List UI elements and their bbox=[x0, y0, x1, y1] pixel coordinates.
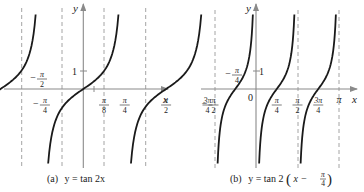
y-axis-label: y bbox=[72, 2, 78, 14]
frac-denominator: 4 bbox=[316, 106, 320, 115]
frac-numerator: π bbox=[102, 96, 107, 105]
frac-numerator: π bbox=[295, 96, 300, 105]
frac-denominator: 2 bbox=[296, 106, 300, 115]
figure: y x 1 −3π4−π4π8π4π23π4 −π2 (a) y = tan 2… bbox=[0, 0, 364, 192]
frac-denominator: 2 bbox=[212, 106, 216, 115]
tangent-curves-b bbox=[218, 14, 336, 163]
close-paren: ) bbox=[327, 171, 332, 188]
y-tick-label: 1 bbox=[72, 66, 77, 77]
minus-sign: − bbox=[30, 72, 36, 83]
frac-denominator: 2 bbox=[40, 80, 44, 89]
minus-sign: − bbox=[225, 68, 231, 79]
caption-prefix: (b) bbox=[230, 173, 242, 185]
frac-numerator: 3π bbox=[313, 96, 323, 105]
open-paren: ( bbox=[286, 171, 291, 188]
caption-frac-den: 4 bbox=[321, 179, 325, 188]
minus-sign: − bbox=[33, 98, 39, 109]
frac-denominator: 4 bbox=[123, 106, 127, 115]
frac-denominator: 4 bbox=[43, 106, 47, 115]
y-axis-label: y bbox=[245, 2, 251, 14]
frac-denominator: 2 bbox=[164, 106, 168, 115]
minus-sign: − bbox=[202, 98, 208, 109]
x-axis-label: x bbox=[351, 93, 357, 105]
y-tick-label: 1 bbox=[259, 66, 264, 77]
caption-a: (a) y = tan 2x bbox=[47, 173, 105, 185]
origin-label: 0 bbox=[248, 92, 253, 103]
panel-b: y x 1 0 −π2π4π23π4π −π4 (b) y = tan 2 ( … bbox=[201, 2, 357, 188]
x-tick-labels-a: −3π4−π4π8π4π23π4 bbox=[0, 96, 212, 115]
caption-frac-num: π bbox=[321, 170, 325, 179]
frac-numerator: π bbox=[164, 96, 169, 105]
frac-numerator: π bbox=[235, 66, 240, 75]
frac-numerator: π bbox=[211, 96, 216, 105]
frac-denominator: 4 bbox=[275, 106, 279, 115]
panel-a: y x 1 −3π4−π4π8π4π23π4 −π2 (a) y = tan 2… bbox=[0, 2, 212, 185]
caption-prefix: (a) bbox=[47, 173, 58, 185]
frac-numerator: π bbox=[123, 96, 128, 105]
frac-denominator: 8 bbox=[102, 106, 106, 115]
frac-denominator: 4 bbox=[235, 76, 239, 85]
caption-equation: y = tan 2 bbox=[248, 173, 283, 184]
frac-numerator: π bbox=[336, 94, 342, 105]
zero-annotation-a: −π2 bbox=[30, 70, 47, 89]
frac-numerator: π bbox=[275, 96, 280, 105]
caption-inner: x − bbox=[293, 173, 308, 184]
caption-equation: y = tan 2x bbox=[65, 173, 105, 184]
frac-numerator: π bbox=[40, 70, 45, 79]
frac-numerator: π bbox=[43, 96, 48, 105]
caption-b: (b) y = tan 2 ( x − bbox=[230, 171, 307, 188]
